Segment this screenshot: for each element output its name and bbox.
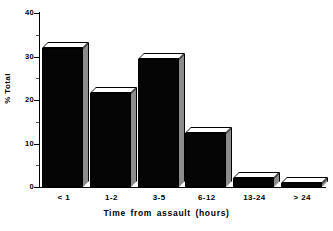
plot-area <box>40 13 326 187</box>
bar-top-face <box>42 42 89 48</box>
y-axis-tick-label: 0 <box>8 183 34 191</box>
y-axis-minor-tick <box>36 78 39 79</box>
bar <box>138 53 179 187</box>
bar-top-face <box>185 127 232 133</box>
bar-front-face <box>185 133 226 187</box>
bar-front-face <box>281 183 322 187</box>
y-axis-minor-tick <box>36 165 39 166</box>
chart-figure: % Total 010203040 < 11-23-56-1213-24> 24… <box>0 0 333 231</box>
y-axis-tick-label: 40 <box>8 9 34 17</box>
y-axis-tick <box>34 187 39 188</box>
bar-side-face <box>179 53 185 187</box>
x-axis-tick-label: 3-5 <box>135 193 183 202</box>
y-axis-tick <box>34 144 39 145</box>
bar-top-face <box>138 53 185 59</box>
x-axis-tick-label: < 1 <box>40 193 88 202</box>
x-axis-title: Time from assault (hours) <box>0 208 333 218</box>
x-axis-tick-label: 1-2 <box>88 193 136 202</box>
bar-top-face <box>281 177 328 183</box>
y-axis-tick <box>34 13 39 14</box>
bar <box>185 127 226 187</box>
bar-side-face <box>83 42 89 187</box>
y-axis-title: % Total <box>3 66 12 112</box>
bar <box>281 177 322 187</box>
x-axis-tick-label: 6-12 <box>183 193 231 202</box>
bar-top-face <box>233 172 280 178</box>
bar-front-face <box>42 48 83 187</box>
bar-front-face <box>90 93 131 187</box>
y-axis-minor-tick <box>36 35 39 36</box>
bar-front-face <box>233 178 274 187</box>
y-axis-tick-label: 30 <box>8 53 34 61</box>
y-axis-tick <box>34 100 39 101</box>
bar-front-face <box>138 59 179 187</box>
x-axis-tick-label: 13-24 <box>231 193 279 202</box>
y-axis-tick <box>34 57 39 58</box>
bar <box>90 87 131 187</box>
bar-side-face <box>131 87 137 187</box>
bar-top-face <box>90 87 137 93</box>
y-axis-tick-label: 10 <box>8 140 34 148</box>
x-axis-tick-label: > 24 <box>278 193 326 202</box>
bar <box>42 42 83 187</box>
bar <box>233 172 274 187</box>
y-axis-tick-label: 20 <box>8 96 34 104</box>
y-axis-minor-tick <box>36 122 39 123</box>
